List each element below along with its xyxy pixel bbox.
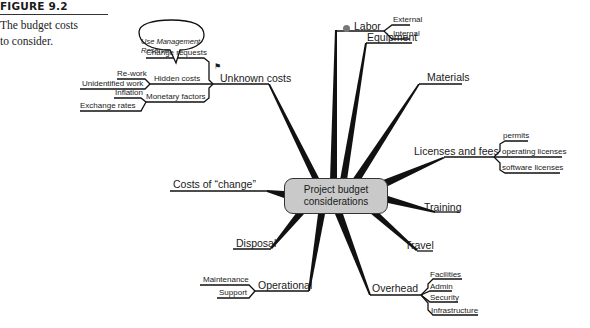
spoke-overhead — [335, 214, 371, 295]
spoke-unknown — [268, 84, 320, 180]
node-overhead-facilities: Facilities — [430, 271, 461, 279]
node-equipment: Equipment — [367, 32, 417, 43]
node-change-requests: Change requests — [146, 49, 207, 57]
node-licenses-operating: operating licenses — [502, 148, 566, 156]
node-labor: Labor — [354, 21, 381, 32]
node-materials: Materials — [427, 72, 470, 83]
callout-line1: Use Management — [141, 37, 200, 46]
node-unidentified-work: Unidentified work — [82, 80, 143, 88]
node-labor-external: External — [393, 16, 422, 24]
node-rework: Re-work — [117, 70, 147, 78]
node-travel: Travel — [405, 240, 434, 251]
node-overhead-infrastructure: Infrastructure — [431, 307, 478, 315]
node-operational: Operational — [258, 280, 312, 291]
spoke-labor — [330, 30, 337, 180]
spoke-materials — [352, 84, 420, 181]
labor-bullet-icon — [343, 25, 350, 32]
node-training: Training — [424, 202, 462, 213]
node-overhead: Overhead — [372, 283, 418, 294]
central-node: Project budget considerations — [284, 178, 388, 214]
node-licenses: Licenses and fees — [414, 146, 499, 157]
node-hidden-costs: Hidden costs — [154, 75, 200, 83]
spoke-costs-of-change — [267, 190, 284, 198]
central-node-line1: Project budget — [304, 184, 369, 196]
central-node-line2: considerations — [304, 196, 369, 208]
node-costs-of-change: Costs of “change” — [173, 179, 256, 190]
node-operational-maintenance: Maintenance — [203, 276, 249, 284]
spoke-equipment — [340, 43, 367, 180]
node-licenses-permits: permits — [503, 132, 529, 140]
node-unknown-costs: Unknown costs — [220, 73, 291, 84]
node-operational-support: Support — [219, 289, 247, 297]
node-licenses-software: software licenses — [502, 164, 563, 172]
node-monetary-factors: Monetary factors — [146, 93, 206, 101]
node-inflation: Inflation — [115, 89, 143, 97]
node-disposal: Disposal — [236, 238, 276, 249]
node-overhead-security: Security — [430, 294, 459, 302]
spoke-licenses — [378, 157, 445, 188]
node-overhead-admin: Admin — [430, 283, 453, 291]
flag-icon: ⚑ — [214, 62, 221, 71]
node-exchange-rates: Exchange rates — [80, 102, 136, 110]
